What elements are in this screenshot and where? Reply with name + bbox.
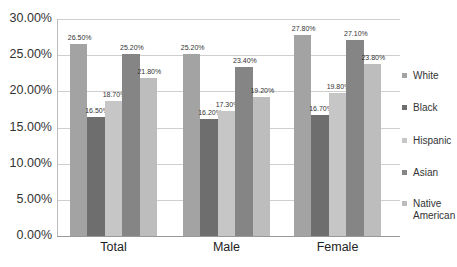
value-label: 27.80% bbox=[292, 25, 316, 32]
bar-asian-total bbox=[122, 54, 139, 236]
legend-swatch-icon bbox=[402, 201, 407, 206]
legend-swatch-icon bbox=[402, 73, 407, 78]
bar-hispanic-male bbox=[218, 111, 235, 236]
legend-label: Asian bbox=[413, 167, 438, 179]
bar-white-total bbox=[70, 44, 87, 236]
legend-label: Native American bbox=[413, 198, 455, 222]
value-label: 23.40% bbox=[233, 57, 257, 64]
x-category-label: Female bbox=[317, 240, 359, 254]
x-category-label: Male bbox=[213, 240, 240, 254]
gridline bbox=[57, 19, 400, 20]
bar-black-female bbox=[311, 115, 328, 236]
value-label: 23.80% bbox=[361, 54, 385, 61]
bar-black-male bbox=[200, 119, 217, 236]
bar-hispanic-female bbox=[329, 93, 346, 236]
y-tick-label: 25.00% bbox=[0, 47, 52, 61]
legend-item: Hispanic bbox=[400, 135, 451, 147]
value-label: 26.50% bbox=[68, 34, 92, 41]
bar-native-american-male bbox=[253, 97, 270, 236]
value-label: 19.20% bbox=[250, 87, 274, 94]
legend-label: White bbox=[413, 70, 439, 82]
bar-black-total bbox=[87, 117, 104, 236]
y-tick-label: 5.00% bbox=[0, 192, 52, 206]
bar-asian-female bbox=[346, 40, 363, 236]
y-tick-label: 20.00% bbox=[0, 83, 52, 97]
y-tick-label: 30.00% bbox=[0, 11, 52, 25]
value-label: 27.10% bbox=[344, 30, 368, 37]
y-axis-line bbox=[57, 19, 58, 237]
y-tick-label: 15.00% bbox=[0, 120, 52, 134]
value-label: 25.20% bbox=[181, 44, 205, 51]
legend-item: White bbox=[400, 70, 439, 82]
value-label: 25.20% bbox=[120, 44, 144, 51]
legend-item: Native American bbox=[400, 198, 455, 222]
legend-label: Hispanic bbox=[413, 135, 451, 147]
x-axis-line bbox=[57, 236, 400, 237]
bar-white-male bbox=[183, 54, 200, 236]
bar-hispanic-total bbox=[105, 101, 122, 236]
bar-native-american-total bbox=[140, 78, 157, 236]
y-tick-label: 0.00% bbox=[0, 228, 52, 242]
legend-label: Black bbox=[413, 102, 437, 114]
bar-white-female bbox=[294, 35, 311, 236]
y-tick-label: 10.00% bbox=[0, 156, 52, 170]
x-category-label: Total bbox=[100, 240, 126, 254]
legend-item: Black bbox=[400, 102, 437, 114]
legend-item: Asian bbox=[400, 167, 438, 179]
legend-swatch-icon bbox=[402, 170, 407, 175]
bar-native-american-female bbox=[364, 64, 381, 236]
value-label: 21.80% bbox=[137, 68, 161, 75]
legend-swatch-icon bbox=[402, 138, 407, 143]
legend-swatch-icon bbox=[402, 105, 407, 110]
